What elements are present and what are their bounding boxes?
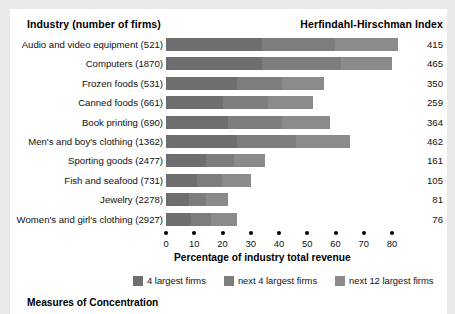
legend-swatch (224, 276, 234, 286)
row-label-industry: Men's and boy's clothing (1362) (28, 136, 163, 147)
chart-row: Canned foods (661)259 (10, 95, 447, 114)
bar-segment (234, 154, 265, 167)
x-axis-tick-dot (277, 231, 281, 235)
row-value-hhi: 161 (427, 155, 443, 166)
stacked-bar (166, 193, 228, 206)
bar-segment (237, 77, 282, 90)
bar-segment (206, 154, 234, 167)
legend-swatch (335, 276, 345, 286)
x-axis: Percentage of industry total revenue 010… (10, 231, 447, 271)
column-header-industry: Industry (number of firms) (27, 18, 161, 30)
bar-segment (189, 193, 206, 206)
chart-row: Frozen foods (531)350 (10, 76, 447, 95)
x-axis-tick-dot (334, 231, 338, 235)
row-value-hhi: 415 (427, 39, 443, 50)
row-label-industry: Canned foods (661) (78, 97, 163, 108)
x-axis-tick-dot (362, 231, 366, 235)
legend-item: next 12 largest firms (335, 275, 433, 286)
legend-label: next 12 largest firms (349, 275, 433, 286)
stacked-bar (166, 213, 237, 226)
row-label-industry: Jewelry (2278) (100, 194, 163, 205)
row-value-hhi: 81 (432, 194, 443, 205)
bar-segment (282, 77, 324, 90)
row-value-hhi: 105 (427, 175, 443, 186)
bar-segment (262, 57, 341, 70)
column-header-hhi: Herfindahl-Hirschman Index (300, 18, 443, 30)
chart-row: Audio and video equipment (521)415 (10, 37, 447, 56)
x-axis-tick-label: 20 (211, 238, 235, 249)
bar-segment (282, 116, 330, 129)
bar-segment (166, 57, 262, 70)
legend-label: next 4 largest firms (238, 275, 317, 286)
page-edge-left (0, 0, 10, 314)
bar-segment (222, 174, 250, 187)
row-label-industry: Book printing (690) (82, 117, 163, 128)
x-axis-tick-label: 0 (154, 238, 178, 249)
chart-row: Men's and boy's clothing (1362)462 (10, 134, 447, 153)
bar-segment (166, 96, 223, 109)
row-value-hhi: 465 (427, 58, 443, 69)
chart-legend: 4 largest firmsnext 4 largest firmsnext … (133, 275, 434, 286)
x-axis-tick-dot (249, 231, 253, 235)
bar-segment (211, 213, 236, 226)
chart-canvas: Industry (number of firms) Herfindahl-Hi… (10, 9, 447, 305)
row-value-hhi: 462 (427, 136, 443, 147)
chart-row: Sporting goods (2477)161 (10, 153, 447, 172)
legend-label: 4 largest firms (147, 275, 206, 286)
chart-row: Women's and girl's clothing (2927)76 (10, 212, 447, 231)
bar-segment (296, 135, 350, 148)
figure-caption: Measures of Concentration (27, 297, 158, 308)
x-axis-tick-label: 30 (239, 238, 263, 249)
row-label-industry: Sporting goods (2477) (68, 155, 163, 166)
bar-segment (166, 213, 191, 226)
bar-segment (166, 154, 206, 167)
legend-swatch (133, 276, 143, 286)
bar-segment (268, 96, 313, 109)
row-value-hhi: 76 (432, 214, 443, 225)
x-axis-tick-label: 60 (324, 238, 348, 249)
bar-segment (228, 116, 282, 129)
legend-item: 4 largest firms (133, 275, 206, 286)
stacked-bar (166, 135, 350, 148)
chart-row: Jewelry (2278)81 (10, 192, 447, 211)
bar-segment (166, 135, 237, 148)
row-label-industry: Computers (1870) (86, 58, 163, 69)
legend-item: next 4 largest firms (224, 275, 317, 286)
x-axis-tick-label: 10 (182, 238, 206, 249)
chart-row: Fish and seafood (731)105 (10, 173, 447, 192)
x-axis-tick-dot (305, 231, 309, 235)
bar-segment (166, 174, 197, 187)
x-axis-tick-dot (164, 231, 168, 235)
x-axis-title: Percentage of industry total revenue (174, 252, 351, 263)
stacked-bar (166, 116, 330, 129)
chart-page: Industry (number of firms) Herfindahl-Hi… (0, 0, 455, 314)
row-value-hhi: 350 (427, 78, 443, 89)
bar-plot: Audio and video equipment (521)415Comput… (10, 37, 447, 231)
row-label-industry: Fish and seafood (731) (64, 175, 163, 186)
stacked-bar (166, 174, 251, 187)
bar-segment (197, 174, 222, 187)
bar-segment (191, 213, 211, 226)
bar-segment (223, 96, 268, 109)
bar-segment (237, 135, 296, 148)
bar-segment (341, 57, 392, 70)
stacked-bar (166, 57, 392, 70)
row-label-industry: Audio and video equipment (521) (22, 39, 163, 50)
bar-segment (166, 38, 262, 51)
x-axis-tick-label: 70 (352, 238, 376, 249)
bar-segment (335, 38, 397, 51)
bar-segment (206, 193, 229, 206)
chart-row: Computers (1870)465 (10, 56, 447, 75)
x-axis-tick-dot (221, 231, 225, 235)
row-value-hhi: 259 (427, 97, 443, 108)
stacked-bar (166, 38, 398, 51)
row-value-hhi: 364 (427, 117, 443, 128)
bar-segment (166, 193, 189, 206)
stacked-bar (166, 77, 324, 90)
bar-segment (166, 116, 228, 129)
x-axis-tick-label: 40 (267, 238, 291, 249)
stacked-bar (166, 96, 313, 109)
row-label-industry: Frozen foods (531) (82, 78, 163, 89)
page-edge-right (447, 0, 455, 314)
row-label-industry: Women's and girl's clothing (2927) (17, 214, 163, 225)
